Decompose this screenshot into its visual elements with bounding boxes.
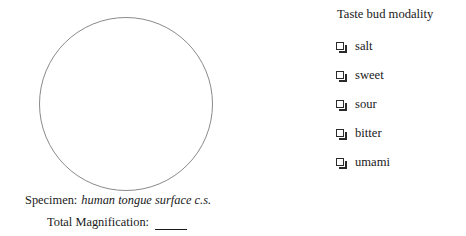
- specimen-label: Specimen:: [25, 193, 77, 207]
- specimen-drawing-panel: Specimen:human tongue surface c.s. Total…: [0, 0, 300, 236]
- modality-item-label: umami: [355, 154, 390, 170]
- modality-checklist: salt sweet sour bitter umami: [336, 38, 390, 183]
- taste-bud-modality-panel: Taste bud modality salt sweet sour bitte…: [336, 0, 466, 236]
- modality-item-label: sour: [355, 96, 377, 112]
- modality-item-label: salt: [355, 38, 373, 54]
- list-item[interactable]: umami: [336, 154, 390, 183]
- list-item[interactable]: sweet: [336, 67, 390, 96]
- magnification-line: Total Magnification:: [47, 214, 187, 230]
- empty-checkbox-icon[interactable]: [336, 129, 344, 137]
- specimen-value: human tongue surface c.s.: [81, 193, 211, 207]
- empty-checkbox-icon[interactable]: [336, 42, 344, 50]
- modality-title: Taste bud modality: [337, 6, 433, 22]
- modality-item-label: sweet: [355, 67, 384, 83]
- empty-checkbox-icon[interactable]: [336, 71, 344, 79]
- empty-checkbox-icon[interactable]: [336, 100, 344, 108]
- list-item[interactable]: bitter: [336, 125, 390, 154]
- specimen-line: Specimen:human tongue surface c.s.: [25, 192, 211, 208]
- list-item[interactable]: sour: [336, 96, 390, 125]
- magnification-blank-field[interactable]: [155, 218, 187, 230]
- magnification-label: Total Magnification:: [47, 214, 149, 230]
- drawing-circle-icon[interactable]: [39, 17, 213, 191]
- empty-checkbox-icon[interactable]: [336, 158, 344, 166]
- list-item[interactable]: salt: [336, 38, 390, 67]
- modality-item-label: bitter: [355, 125, 382, 141]
